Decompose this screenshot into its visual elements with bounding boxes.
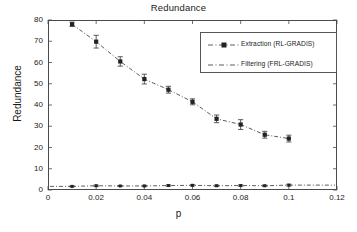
legend-swatch-extraction: [207, 37, 241, 49]
chart-legend: Extraction (RL-GRADIS) Filtering (FRL-GR…: [200, 32, 337, 73]
x-tick-label: 0.08: [223, 193, 259, 202]
x-tick-label: 0.04: [126, 193, 162, 202]
x-tick-label: 0.12: [319, 193, 355, 202]
legend-label-filtering: Filtering (FRL-GRADIS): [241, 60, 313, 67]
x-tick-label: 0.02: [78, 193, 114, 202]
y-tick-label: 80: [17, 15, 43, 24]
legend-item-extraction: Extraction (RL-GRADIS): [201, 33, 338, 53]
legend-swatch-filtering: [207, 57, 241, 69]
legend-label-extraction: Extraction (RL-GRADIS): [241, 40, 315, 47]
y-tick-label: 10: [17, 164, 43, 173]
legend-item-filtering: Filtering (FRL-GRADIS): [201, 53, 338, 73]
x-tick-label: 0: [30, 193, 66, 202]
chart-title: Redundance: [0, 2, 357, 13]
x-tick-label: 0.1: [271, 193, 307, 202]
x-tick-label: 0.06: [175, 193, 211, 202]
x-axis-label: p: [0, 208, 357, 219]
figure-canvas: Redundance 01020304050607080 00.020.040.…: [0, 0, 357, 232]
y-axis-label: Redundance: [12, 39, 23, 149]
